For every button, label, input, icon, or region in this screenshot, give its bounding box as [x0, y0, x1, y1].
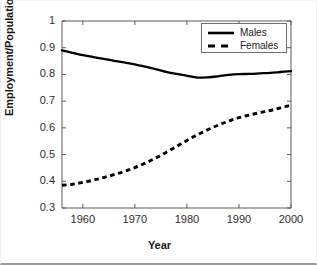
x-tick-label: 1970: [113, 214, 157, 225]
legend-label-males: Males: [240, 27, 267, 39]
legend-swatch-dashed-icon: [207, 39, 235, 53]
y-tick-label: 0.4: [1, 175, 55, 186]
y-tick-label: 0.5: [1, 149, 55, 160]
chart-legend: Males Females: [201, 23, 287, 53]
legend-label-females: Females: [240, 40, 278, 52]
x-axis-title: Year: [1, 239, 317, 251]
y-tick-label: 0.3: [1, 202, 55, 213]
legend-item-males[interactable]: Males: [202, 26, 288, 40]
x-tick-label: 1960: [61, 214, 105, 225]
x-tick-label: 2000: [269, 214, 313, 225]
chart-figure: 0.30.40.50.60.70.80.91 19601970198019902…: [0, 0, 317, 265]
y-axis-title: Employment/Population: [3, 0, 15, 124]
x-tick-label: 1980: [165, 214, 209, 225]
legend-swatch-solid-icon: [207, 26, 235, 40]
legend-item-females[interactable]: Females: [202, 39, 288, 53]
x-tick-label: 1990: [217, 214, 261, 225]
